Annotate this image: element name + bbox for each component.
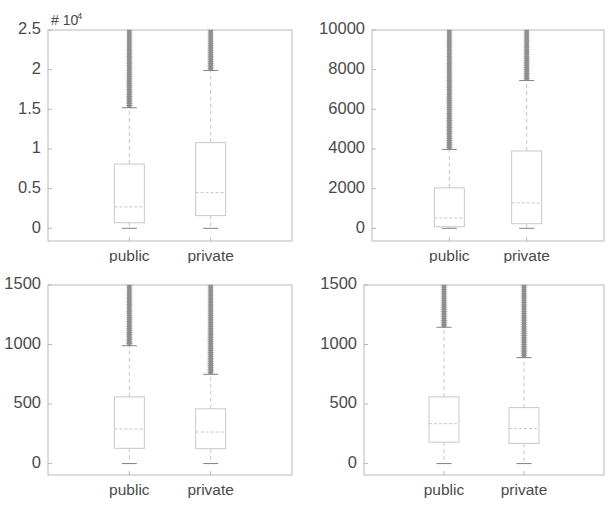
y-tick-label: 500 (13, 393, 41, 411)
outlier-cluster (126, 30, 133, 108)
y-tick-label: 0.5 (18, 178, 41, 196)
panel-bottom-left: 050010001500publicprivate (4, 263, 304, 510)
panel-plot-top-right: 0200040006000800010000publicprivate (308, 8, 608, 263)
outlier-cluster (441, 285, 448, 327)
y-tick-label: 0 (32, 453, 41, 471)
outlier-cluster (207, 30, 214, 70)
y-tick-label: 1000 (320, 334, 357, 352)
plot-frame (364, 285, 604, 475)
panel-plot-bottom-right: 050010001500publicprivate (308, 263, 608, 510)
y-tick-label: 8000 (328, 59, 365, 77)
y-tick-label: 1500 (320, 274, 357, 292)
box-iqr (196, 143, 226, 216)
boxplot-private (512, 30, 542, 228)
x-tick-label-private: private (187, 481, 234, 498)
x-tick-label-public: public (109, 247, 150, 263)
plot-frame (372, 30, 604, 241)
outlier-cluster (446, 30, 453, 149)
y-tick-label: 2 (32, 59, 41, 77)
y-tick-label: 1000 (4, 334, 41, 352)
box-iqr (114, 397, 144, 448)
y-tick-label: 1.5 (18, 99, 41, 117)
box-iqr (429, 397, 459, 442)
outlier-cluster (521, 285, 528, 358)
y-tick-label: 6000 (328, 99, 365, 117)
boxplot-private (509, 285, 539, 464)
y-tick-label: 2.5 (18, 19, 41, 37)
outlier-cluster (523, 30, 530, 81)
boxplot-private (196, 30, 226, 228)
boxplot-public (429, 285, 459, 464)
plot-frame (48, 285, 292, 475)
panel-plot-top-left: 00.511.522.5publicprivate# 104 (4, 8, 304, 263)
outlier-cluster (207, 285, 214, 374)
boxplot-public (114, 285, 144, 464)
box-iqr (512, 151, 542, 224)
x-tick-label-private: private (501, 481, 548, 498)
y-tick-label: 2000 (328, 178, 365, 196)
box-iqr (434, 188, 464, 227)
units-exponent: 4 (77, 10, 82, 21)
box-iqr (509, 408, 539, 444)
y-tick-label: 0 (356, 218, 365, 236)
y-tick-label: 10000 (319, 19, 365, 37)
box-iqr (114, 164, 144, 223)
panel-plot-bottom-left: 050010001500publicprivate (4, 263, 304, 510)
y-tick-label: 1500 (4, 274, 41, 292)
outlier-core (524, 30, 529, 81)
plot-frame (48, 30, 292, 241)
y-tick-label: 1 (32, 138, 41, 156)
y-tick-label: 0 (348, 453, 357, 471)
x-tick-label-public: public (424, 481, 465, 498)
boxplot-public (114, 30, 144, 228)
panel-top-left: 00.511.522.5publicprivate# 104 (4, 8, 304, 263)
boxplot-figure: 00.511.522.5publicprivate# 104 020004000… (0, 0, 608, 510)
x-tick-label-public: public (429, 247, 470, 263)
panel-top-right: 0200040006000800010000publicprivate (308, 8, 608, 263)
outlier-core (127, 30, 132, 108)
units-label: # 10 (51, 12, 78, 28)
y-tick-label: 4000 (328, 138, 365, 156)
y-tick-label: 500 (329, 393, 357, 411)
outlier-cluster (126, 285, 133, 346)
box-iqr (196, 409, 226, 449)
x-tick-label-private: private (187, 247, 234, 263)
x-tick-label-public: public (109, 481, 150, 498)
boxplot-public (434, 30, 464, 228)
panel-bottom-right: 050010001500publicprivate (308, 263, 608, 510)
boxplot-private (196, 285, 226, 464)
y-tick-label: 0 (32, 218, 41, 236)
x-tick-label-private: private (503, 247, 550, 263)
